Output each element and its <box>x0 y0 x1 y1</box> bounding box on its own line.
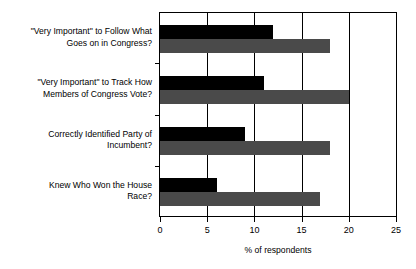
x-axis-tick-label: 5 <box>192 225 222 236</box>
y-axis-tick <box>155 166 160 167</box>
bar <box>160 141 330 155</box>
plot-area <box>159 12 397 217</box>
category-axis-labels: "Very Important" to Follow What Goes on … <box>0 12 152 217</box>
bar <box>160 178 217 192</box>
bar <box>160 127 245 141</box>
x-axis-tick <box>160 217 161 222</box>
category-label: Correctly Identified Party of Incumbent? <box>0 129 152 152</box>
bar <box>160 90 349 104</box>
x-axis-tick-label: 0 <box>145 225 175 236</box>
bar <box>160 192 320 206</box>
bar <box>160 39 330 53</box>
x-axis-tick-label: 25 <box>381 225 411 236</box>
category-label: Knew Who Won the House Race? <box>0 180 152 203</box>
category-label: "Very Important" to Follow What Goes on … <box>0 26 152 49</box>
x-axis-tick <box>302 217 303 222</box>
x-axis-tick-label: 10 <box>239 225 269 236</box>
gridline <box>349 13 350 216</box>
bar <box>160 25 273 39</box>
x-axis-tick-label: 15 <box>287 225 317 236</box>
x-axis-title: % of respondents <box>159 245 397 255</box>
category-label: "Very Important" to Track How Members of… <box>0 77 152 100</box>
x-axis-tick <box>207 217 208 222</box>
bar-chart: "Very Important" to Follow What Goes on … <box>0 0 416 269</box>
x-axis-tick <box>349 217 350 222</box>
bar <box>160 76 264 90</box>
x-axis-tick <box>254 217 255 222</box>
x-axis-tick-label: 20 <box>334 225 364 236</box>
y-axis-tick <box>155 63 160 64</box>
y-axis-tick <box>155 115 160 116</box>
x-axis-tick <box>396 217 397 222</box>
